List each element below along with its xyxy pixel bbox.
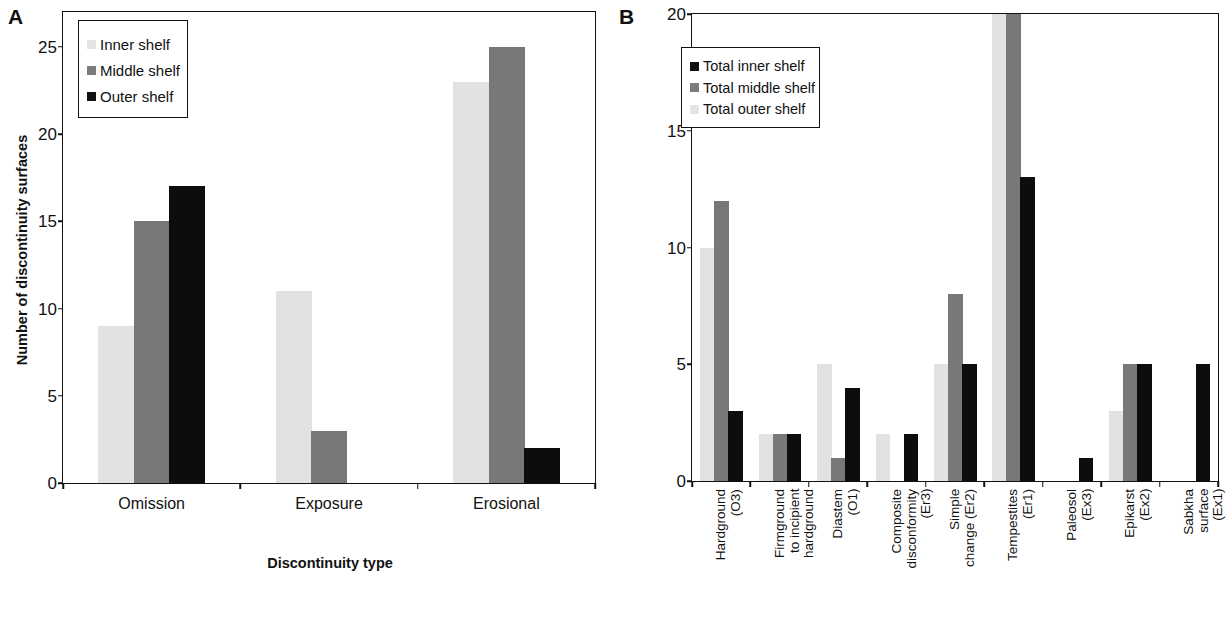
bar xyxy=(714,201,729,481)
y-tick-mark xyxy=(58,133,63,135)
panel-b-legend: Total inner shelf Total middle shelf Tot… xyxy=(681,47,820,128)
bar xyxy=(700,248,715,482)
x-tick-mark xyxy=(925,481,927,487)
bar xyxy=(453,82,489,483)
y-tick-mark xyxy=(58,46,63,48)
bar xyxy=(992,14,1007,481)
y-tick-label: 15 xyxy=(38,213,57,230)
legend-label-middle-shelf: Middle shelf xyxy=(100,63,180,78)
x-tick-label: Erosional xyxy=(473,495,540,513)
bar xyxy=(98,326,134,483)
x-tick-label: Diastem(O1) xyxy=(831,489,860,539)
x-tick-mark xyxy=(240,483,242,489)
x-tick-mark xyxy=(1217,481,1219,487)
x-tick-mark xyxy=(1159,481,1161,487)
bar xyxy=(1137,364,1152,481)
legend-label-outer-shelf: Outer shelf xyxy=(100,89,173,104)
bar xyxy=(524,448,560,483)
panel-b: B 05101520 Hardground(O3)Firmgroundto in… xyxy=(613,0,1226,630)
x-tick-label: Compositedisconformity(Er3) xyxy=(890,489,934,569)
bar xyxy=(831,458,846,481)
bar xyxy=(169,186,205,483)
bar xyxy=(134,221,170,483)
y-tick-label: 0 xyxy=(48,475,57,492)
bar xyxy=(728,411,743,481)
y-tick-mark xyxy=(687,13,692,15)
legend-swatch-icon-total-middle-shelf xyxy=(690,83,699,92)
x-tick-label: Tempestites(Er1) xyxy=(1006,489,1035,561)
x-tick-label: Hardground(O3) xyxy=(714,489,743,560)
x-tick-mark xyxy=(867,481,869,487)
legend-swatch-icon-outer-shelf xyxy=(87,92,96,101)
x-tick-label: Simplechange (Er2) xyxy=(948,489,977,567)
x-tick-mark xyxy=(62,483,64,489)
x-tick-label: Epikarst(Ex2) xyxy=(1123,489,1152,538)
bar xyxy=(1006,14,1021,481)
legend-swatch-icon-total-inner-shelf xyxy=(690,62,699,71)
panel-a-letter: A xyxy=(8,6,23,27)
panel-a-legend: Inner shelf Middle shelf Outer shelf xyxy=(78,20,188,118)
bar xyxy=(1109,411,1124,481)
y-tick-label: 20 xyxy=(667,6,686,23)
bar xyxy=(1123,364,1138,481)
legend-swatch-icon-total-outer-shelf xyxy=(690,105,699,114)
legend-item-total-outer-shelf: Total outer shelf xyxy=(690,102,809,117)
panel-b-letter: B xyxy=(619,6,634,27)
bar xyxy=(489,47,525,483)
x-tick-mark xyxy=(691,481,693,487)
y-tick-label: 0 xyxy=(677,473,686,490)
legend-swatch-icon-middle-shelf xyxy=(87,66,96,75)
figure-container: A Number of discontinuity surfaces Disco… xyxy=(0,0,1226,630)
bar xyxy=(759,434,774,481)
bar xyxy=(948,294,963,481)
y-tick-mark xyxy=(58,395,63,397)
y-tick-label: 20 xyxy=(38,126,57,143)
panel-a-x-axis-title: Discontinuity type xyxy=(267,555,393,571)
x-tick-mark xyxy=(417,483,419,489)
legend-label-total-inner-shelf: Total inner shelf xyxy=(703,59,805,74)
x-tick-mark xyxy=(983,481,985,487)
bar xyxy=(934,364,949,481)
x-tick-mark xyxy=(594,483,596,489)
x-tick-label: Paleosol(Ex3) xyxy=(1065,489,1094,541)
x-tick-mark xyxy=(1042,481,1044,487)
bar xyxy=(1196,364,1211,481)
x-tick-mark xyxy=(750,481,752,487)
legend-item-total-middle-shelf: Total middle shelf xyxy=(690,81,809,96)
x-tick-mark xyxy=(1100,481,1102,487)
bar xyxy=(845,388,860,481)
legend-item-middle-shelf: Middle shelf xyxy=(87,63,177,78)
y-tick-mark xyxy=(687,247,692,249)
y-tick-mark xyxy=(58,221,63,223)
y-tick-label: 10 xyxy=(38,300,57,317)
x-tick-label: Firmgroundto incipienthardground xyxy=(773,489,817,558)
legend-label-total-outer-shelf: Total outer shelf xyxy=(703,102,805,117)
bar xyxy=(904,434,919,481)
legend-item-total-inner-shelf: Total inner shelf xyxy=(690,59,809,74)
y-tick-label: 5 xyxy=(48,387,57,404)
y-tick-mark xyxy=(58,308,63,310)
panel-a-y-axis-title: Number of discontinuity surfaces xyxy=(14,135,30,365)
legend-label-total-middle-shelf: Total middle shelf xyxy=(703,81,815,96)
bar xyxy=(787,434,802,481)
bar xyxy=(962,364,977,481)
bar xyxy=(1079,458,1094,481)
y-tick-mark xyxy=(687,130,692,132)
y-tick-mark xyxy=(687,364,692,366)
x-tick-label: Exposure xyxy=(295,495,363,513)
bar xyxy=(311,431,347,483)
x-tick-label: Omission xyxy=(118,495,185,513)
legend-label-inner-shelf: Inner shelf xyxy=(100,37,170,52)
bar xyxy=(276,291,312,483)
bar xyxy=(773,434,788,481)
panel-a: A Number of discontinuity surfaces Disco… xyxy=(0,0,613,630)
x-tick-label: Sabkhasurface(Ex1) xyxy=(1182,489,1226,535)
y-tick-label: 5 xyxy=(677,356,686,373)
bar xyxy=(1020,177,1035,481)
bar xyxy=(817,364,832,481)
x-tick-mark xyxy=(808,481,810,487)
y-tick-label: 10 xyxy=(667,239,686,256)
y-tick-label: 25 xyxy=(38,38,57,55)
legend-item-outer-shelf: Outer shelf xyxy=(87,89,177,104)
legend-item-inner-shelf: Inner shelf xyxy=(87,37,177,52)
